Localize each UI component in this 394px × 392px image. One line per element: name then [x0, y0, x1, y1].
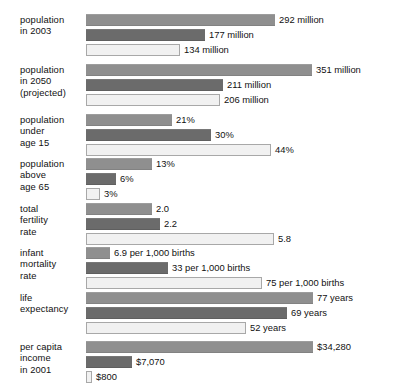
group-label-line: life [20, 292, 84, 303]
bar-row: 33 per 1,000 births [86, 262, 250, 274]
bar-row: 211 million [86, 79, 271, 91]
group-label-line: age 65 [20, 181, 84, 192]
bar-value-label: 2.2 [164, 218, 177, 230]
bar-row: 44% [86, 144, 294, 156]
bar-row: 77 years [86, 292, 353, 304]
bar-value-label: 351 million [316, 64, 361, 76]
bar-series-1 [86, 247, 110, 259]
bar-row: 21% [86, 114, 195, 126]
bar-value-label: 292 million [279, 14, 324, 26]
bar-series-1 [86, 14, 275, 26]
group-label-line: expectancy [20, 303, 84, 314]
bar-series-1 [86, 203, 152, 215]
bar-series-2 [86, 262, 168, 274]
group-label-line: infant [20, 247, 84, 258]
bar-value-label: 44% [275, 144, 294, 156]
group-label-line: above [20, 169, 84, 180]
bar-value-label: $34,280 [317, 341, 351, 353]
bar-value-label: $7,070 [136, 356, 165, 368]
bar-row: 351 million [86, 64, 361, 76]
group-label: lifeexpectancy [20, 292, 84, 315]
bar-value-label: 33 per 1,000 births [172, 262, 250, 274]
group-label-line: income [20, 352, 84, 363]
bar-value-label: 206 million [224, 94, 269, 106]
group-label: populationunderage 15 [20, 114, 84, 148]
bar-value-label: 30% [215, 129, 234, 141]
group-label-line: population [20, 64, 84, 75]
bar-value-label: 77 years [317, 292, 353, 304]
bar-series-1 [86, 158, 152, 170]
bar-chart: populationin 2003292 million177 million1… [0, 0, 394, 392]
bar-row: 6% [86, 173, 134, 185]
group-label-line: in 2003 [20, 25, 84, 36]
bar-row: 5.8 [86, 233, 291, 245]
group-label-line: mortality [20, 258, 84, 269]
bar-value-label: 52 years [250, 322, 286, 334]
group-label: populationin 2003 [20, 14, 84, 37]
group-label-line: per capita [20, 341, 84, 352]
bar-value-label: 5.8 [278, 233, 291, 245]
group-label-line: population [20, 114, 84, 125]
group-label: populationaboveage 65 [20, 158, 84, 192]
bar-series-1 [86, 292, 313, 304]
bar-series-3 [86, 277, 262, 289]
bar-value-label: $800 [96, 371, 117, 383]
bar-row: $7,070 [86, 356, 165, 368]
bar-series-3 [86, 144, 271, 156]
bar-series-1 [86, 341, 313, 353]
bar-row: 52 years [86, 322, 286, 334]
bar-series-3 [86, 322, 246, 334]
bar-series-3 [86, 94, 220, 106]
bar-row: $800 [86, 371, 117, 383]
bar-row: 30% [86, 129, 234, 141]
bar-value-label: 75 per 1,000 births [266, 277, 344, 289]
bar-series-2 [86, 129, 211, 141]
bar-row: 13% [86, 158, 175, 170]
group-label-line: total [20, 203, 84, 214]
group-label-line: in 2001 [20, 364, 84, 375]
group-label: infantmortalityrate [20, 247, 84, 281]
bar-value-label: 3% [104, 188, 118, 200]
bar-series-3 [86, 188, 100, 200]
bar-series-2 [86, 173, 116, 185]
bar-value-label: 6% [120, 173, 134, 185]
group-label-line: fertility [20, 214, 84, 225]
bar-row: 206 million [86, 94, 269, 106]
group-label-line: rate [20, 270, 84, 281]
group-label-line: in 2050 [20, 75, 84, 86]
bar-row: 292 million [86, 14, 324, 26]
bar-value-label: 69 years [291, 307, 327, 319]
bar-row: 6.9 per 1,000 births [86, 247, 195, 259]
bar-value-label: 2.0 [156, 203, 169, 215]
bar-value-label: 211 million [227, 79, 271, 91]
bar-series-3 [86, 44, 180, 56]
bar-series-1 [86, 114, 172, 126]
group-label: per capitaincomein 2001 [20, 341, 84, 375]
bar-series-3 [86, 233, 274, 245]
bar-row: 2.2 [86, 218, 177, 230]
bar-value-label: 13% [156, 158, 175, 170]
group-label-line: rate [20, 226, 84, 237]
bar-series-3 [86, 371, 92, 383]
bar-series-2 [86, 79, 223, 91]
bar-row: $34,280 [86, 341, 351, 353]
bar-series-2 [86, 29, 205, 41]
bar-series-2 [86, 356, 132, 368]
group-label: populationin 2050(projected) [20, 64, 84, 98]
group-label-line: population [20, 158, 84, 169]
bar-row: 75 per 1,000 births [86, 277, 344, 289]
group-label-line: under [20, 125, 84, 136]
bar-value-label: 177 million [209, 29, 254, 41]
group-label: totalfertilityrate [20, 203, 84, 237]
bar-value-label: 134 million [184, 44, 229, 56]
bar-series-2 [86, 307, 287, 319]
bar-series-2 [86, 218, 160, 230]
group-label-line: (projected) [20, 87, 84, 98]
bar-series-1 [86, 64, 312, 76]
bar-row: 134 million [86, 44, 229, 56]
bar-value-label: 21% [176, 114, 195, 126]
group-label-line: population [20, 14, 84, 25]
bar-row: 3% [86, 188, 118, 200]
group-label-line: age 15 [20, 137, 84, 148]
bar-row: 2.0 [86, 203, 169, 215]
